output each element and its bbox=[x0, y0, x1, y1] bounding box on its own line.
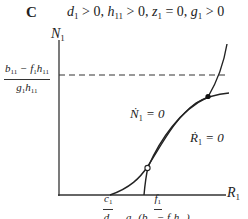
x-tick-f1-threshold: f1 a11(b11 − f1h11) bbox=[126, 192, 190, 219]
dashed-level-label: b11 − f1h11 g1h11 bbox=[4, 62, 50, 97]
x-axis-label: R1 bbox=[227, 185, 240, 202]
y-axis-label: N1 bbox=[51, 26, 65, 43]
stable-equilibrium bbox=[205, 94, 210, 99]
n1-nullcline-label: Ṅ1 = 0 bbox=[130, 106, 164, 123]
x-tick-c1-over-d1: c1 d1 bbox=[103, 192, 113, 219]
unstable-equilibrium bbox=[145, 165, 150, 170]
phase-plane bbox=[0, 0, 248, 219]
r1-nullcline-label: Ṙ1 = 0 bbox=[190, 130, 224, 147]
